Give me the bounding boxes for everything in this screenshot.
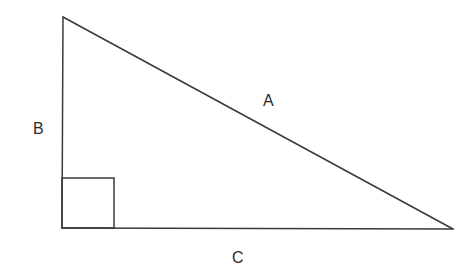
triangle (62, 17, 453, 229)
label-c-horizontal-leg: C (232, 249, 244, 266)
side-a-hypotenuse (63, 17, 453, 229)
right-angle-marker (62, 178, 114, 228)
right-triangle-diagram: A B C (0, 0, 473, 277)
side-c-horizontal-leg (62, 228, 453, 229)
label-b-vertical-leg: B (33, 120, 44, 137)
label-a-hypotenuse: A (263, 92, 274, 109)
